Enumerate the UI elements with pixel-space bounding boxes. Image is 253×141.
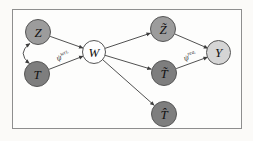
node-y-label: Y xyxy=(215,46,222,59)
node-z-tilde-label: Z̃ xyxy=(159,23,166,36)
node-z-label: Z xyxy=(34,26,41,39)
node-t-tilde: T̃ xyxy=(151,60,177,86)
node-w-label: W xyxy=(89,46,100,59)
node-t-label: T xyxy=(33,68,40,81)
node-t: T xyxy=(24,61,50,87)
edge-w-that xyxy=(103,60,155,106)
node-z-tilde: Z̃ xyxy=(150,16,176,42)
edge-ztilde-y xyxy=(175,34,208,48)
node-z: Z xyxy=(25,19,51,45)
edge-w-ttilde xyxy=(105,55,152,69)
node-t-hat-label: T̂ xyxy=(160,108,167,121)
node-w: W xyxy=(82,40,106,64)
edge-z-w xyxy=(50,36,83,48)
node-t-hat: T̂ xyxy=(151,101,177,127)
node-y: Y xyxy=(206,40,231,65)
edge-z-t-bidirectional xyxy=(23,44,30,64)
edge-w-ztilde xyxy=(105,33,151,48)
node-t-tilde-label: T̃ xyxy=(160,67,167,80)
